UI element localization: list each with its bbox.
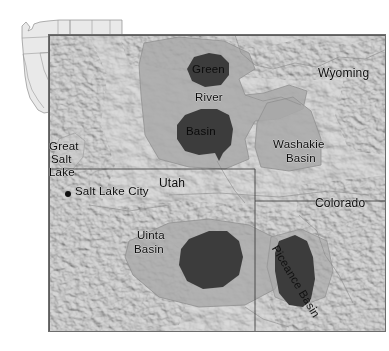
figure-root: Idaho (0, 0, 389, 351)
water-label-great-salt-lake-line-3: Lake (49, 166, 75, 179)
basin-label-green-river-word-2: River (195, 91, 223, 104)
city-label-salt-lake-city: Salt Lake City (75, 185, 149, 198)
basin-label-washakie-line-2: Basin (286, 152, 316, 166)
state-label-utah: Utah (159, 177, 185, 190)
main-relief-map: Green River Basin Washakie Basin Uinta B… (48, 34, 386, 332)
city-marker-salt-lake-city (65, 191, 71, 197)
basin-label-washakie-line-1: Washakie (273, 138, 325, 152)
basin-label-green-river-word-1: Green (192, 63, 225, 76)
basin-label-uinta-line-1: Uinta (137, 229, 165, 243)
basin-label-green-river-word-3: Basin (186, 125, 216, 138)
water-label-great-salt-lake-line-1: Great (49, 140, 79, 153)
state-label-wyoming: Wyoming (318, 67, 369, 80)
basin-label-uinta-line-2: Basin (134, 243, 164, 257)
water-label-great-salt-lake-line-2: Salt (51, 153, 72, 166)
state-label-colorado: Colorado (315, 197, 365, 210)
